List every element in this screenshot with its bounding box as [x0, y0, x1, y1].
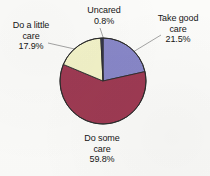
pie-label-uncared: Uncared 0.8% [62, 5, 146, 26]
pie-label-do-a-little-care-name-line1: Do a little [0, 20, 62, 31]
pie-label-take-good-care-name-line2: care [146, 24, 210, 35]
pie-label-take-good-care-value: 21.5% [146, 34, 210, 45]
pie-label-uncared-name: Uncared [62, 5, 146, 16]
pie-label-uncared-value: 0.8% [62, 16, 146, 27]
pie-label-do-some-care-value: 59.8% [54, 154, 150, 165]
pie-label-take-good-care: Take good care 21.5% [146, 13, 210, 45]
pie-label-do-a-little-care: Do a little care 17.9% [0, 20, 62, 52]
pie-label-do-some-care-name-line2: care [54, 144, 150, 155]
pie-label-do-some-care-name-line1: Do some [54, 133, 150, 144]
pie-label-do-a-little-care-name-line2: care [0, 31, 62, 42]
pie-chart-figure: Uncared 0.8% Take good care 21.5% Do a l… [0, 0, 210, 176]
pie-label-do-some-care: Do some care 59.8% [54, 133, 150, 165]
pie-label-do-a-little-care-value: 17.9% [0, 41, 62, 52]
pie-label-take-good-care-name-line1: Take good [146, 13, 210, 24]
